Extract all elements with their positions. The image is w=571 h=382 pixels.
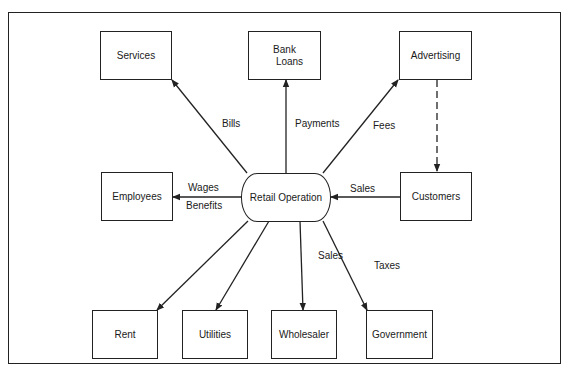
node-employees: Employees <box>101 172 173 221</box>
edge-label-fees: Fees <box>373 120 395 132</box>
node-label: Customers <box>412 191 460 203</box>
node-services: Services <box>100 31 172 80</box>
node-bank-loans: Bank Loans <box>248 31 321 80</box>
edge-label-bills: Bills <box>222 118 240 130</box>
node-label: Advertising <box>411 50 460 62</box>
node-label: Employees <box>112 191 161 203</box>
node-rent: Rent <box>92 310 158 359</box>
node-label: Rent <box>114 329 135 341</box>
node-customers: Customers <box>400 172 472 221</box>
node-label: Retail Operation <box>250 192 322 204</box>
node-wholesaler: Wholesaler <box>271 310 337 359</box>
edge-label-wages: Wages <box>188 182 219 194</box>
edge-label-taxes: Taxes <box>374 260 400 272</box>
node-label: Services <box>117 50 155 62</box>
edge-label-benefits: Benefits <box>186 200 222 212</box>
node-label-line2: Loans <box>266 56 303 68</box>
node-advertising: Advertising <box>399 31 472 80</box>
edge-label-payments: Payments <box>295 118 339 130</box>
node-label: Government <box>372 329 427 341</box>
node-label: Wholesaler <box>279 329 329 341</box>
node-utilities: Utilities <box>182 310 248 359</box>
node-label: Utilities <box>199 329 231 341</box>
node-retail-operation: Retail Operation <box>241 173 331 222</box>
node-label-line1: Bank <box>273 44 296 56</box>
node-government: Government <box>366 310 433 359</box>
edge-label-sales-wholesaler: Sales <box>318 250 343 262</box>
edge-label-sales-customers: Sales <box>350 183 375 195</box>
retail-operation-flow-diagram: Services Bank Loans Advertising Employee… <box>0 0 571 382</box>
